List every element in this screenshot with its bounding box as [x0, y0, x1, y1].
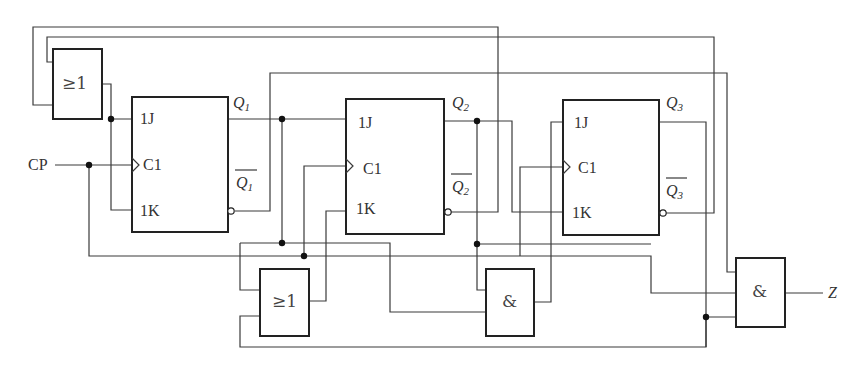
inverter-bubble-icon — [660, 210, 666, 216]
jk-flipflop-3: 1J C1 1K Q3 Q3 — [563, 94, 687, 235]
and1-label: & — [502, 291, 517, 311]
z-output-label: Z — [828, 284, 838, 301]
ff2-q-label: Q2 — [452, 94, 470, 113]
wire-q3-out — [659, 122, 706, 347]
ff1-j-label: 1J — [140, 110, 154, 127]
ff2-j-label: 1J — [358, 114, 372, 131]
junction-dot — [474, 118, 480, 124]
and-gate-1: & — [486, 269, 534, 336]
ff3-j-label: 1J — [574, 114, 588, 131]
wire-q1bar-to-and2 — [235, 73, 736, 272]
inverter-bubble-icon — [445, 209, 451, 215]
and-gate-2: & — [736, 258, 785, 327]
jk-flipflop-2: 1J C1 1K Q2 Q2 — [346, 94, 472, 234]
ff3-q-label: Q3 — [666, 94, 684, 113]
junction-dot — [703, 314, 709, 320]
ff3-qbar-label: Q3 — [666, 182, 684, 201]
junction-dot — [279, 240, 285, 246]
or-gate-2: ≥1 — [260, 269, 309, 336]
circuit-diagram: ≥1 1J C1 1K Q1 Q1 1J C1 1K Q2 Q2 1J C1 1… — [0, 0, 864, 368]
junction-dot — [108, 116, 114, 122]
junction-dot — [86, 162, 92, 168]
and2-label: & — [752, 281, 767, 301]
junction-dot — [474, 241, 480, 247]
ff3-k-label: 1K — [572, 204, 592, 221]
cp-input-label: CP — [28, 156, 48, 173]
wire-q2-to-and1 — [477, 121, 486, 290]
or1-label: ≥1 — [62, 73, 87, 93]
ff1-q-label: Q1 — [233, 94, 250, 113]
junction-dot — [301, 253, 307, 259]
ff1-clk-label: C1 — [143, 156, 162, 173]
ff2-clk-label: C1 — [363, 160, 382, 177]
ff2-qbar-label: Q2 — [452, 178, 470, 197]
ff1-qbar-label: Q1 — [236, 174, 253, 193]
ff3-clk-label: C1 — [578, 159, 597, 176]
ff1-k-label: 1K — [140, 202, 160, 219]
inverter-bubble-icon — [228, 208, 234, 214]
ff2-k-label: 1K — [356, 200, 376, 217]
or2-label: ≥1 — [272, 291, 297, 311]
junction-dot — [279, 116, 285, 122]
or-gate-1: ≥1 — [53, 49, 102, 119]
wire-or1-to-j1 — [102, 84, 132, 119]
wire-q1-to-or2 — [240, 243, 260, 290]
